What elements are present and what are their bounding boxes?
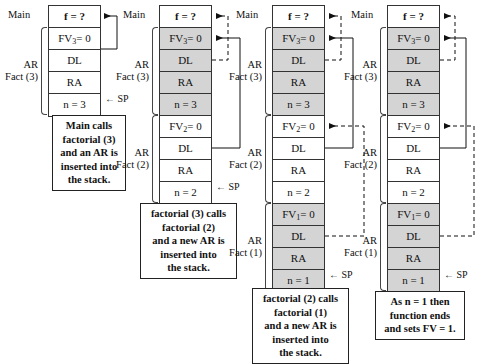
ar-bracket-col4-frame3 — [380, 203, 386, 291]
sp-pointer-col3: ← SP — [329, 269, 353, 280]
stack-cell-dl: DL — [273, 226, 324, 248]
caption-box-col2: factorial (3) calls factorial (2) and a … — [140, 203, 237, 279]
stack-cell-dl: DL — [388, 138, 439, 160]
arrow-col4-dl3-to-main — [440, 16, 455, 60]
stack-cell-n: n = 2 — [273, 182, 324, 204]
stack-cell-fv: FV1= 0 — [273, 204, 324, 226]
stack-cell-fv: FV3= 0 — [388, 28, 439, 50]
stack-cell-main-result: f = ? — [388, 6, 439, 28]
ar-label-col3-frame3: AR Fact (1) — [224, 235, 262, 259]
sp-pointer-col2: ← SP — [216, 181, 240, 192]
stack-cell-fv: FV3= 0 — [160, 28, 211, 50]
stack-cell-dl: DL — [388, 226, 439, 248]
stack-cell-ra: RA — [388, 72, 439, 94]
stack-cell-n: n = 2 — [388, 182, 439, 204]
stack-cell-dl: DL — [273, 138, 324, 160]
stack-cell-n: n = 2 — [160, 182, 211, 204]
ar-bracket-col3-frame3 — [265, 203, 271, 291]
ar-bracket-col4-frame1 — [380, 27, 386, 115]
stack-cell-main-result: f = ? — [160, 6, 211, 28]
stack-cell-fv: FV2= 0 — [273, 116, 324, 138]
stack-cell-n: n = 3 — [388, 94, 439, 116]
ar-bracket-col2-frame2 — [152, 115, 158, 203]
stack-cell-main-result: f = ? — [49, 6, 100, 28]
stack-cell-ra: RA — [388, 248, 439, 270]
caption-box-col3: factorial (2) calls factorial (1) and a … — [252, 288, 349, 364]
stack-cell-dl: DL — [49, 50, 100, 72]
stack-frames-col2: f = ? FV3= 0 DL RA n = 3 FV2= 0 DL RA n … — [159, 5, 212, 205]
stack-cell-dl: DL — [273, 50, 324, 72]
ar-label-col1-frame1: AR Fact (3) — [0, 59, 38, 83]
stack-cell-ra: RA — [273, 72, 324, 94]
stack-cell-n: n = 1 — [388, 270, 439, 292]
stack-cell-main-result: f = ? — [273, 6, 324, 28]
main-label-col4: Main — [351, 9, 373, 20]
stack-cell-ra: RA — [273, 248, 324, 270]
stack-cell-fv: FV2= 0 — [160, 116, 211, 138]
arrow-col3-dl3-to-main — [325, 16, 341, 60]
main-label-col1: Main — [8, 9, 30, 20]
stack-cell-ra: RA — [388, 160, 439, 182]
arrow-col4-dl2-to-fv3 — [440, 38, 466, 148]
stack-cell-ra: RA — [273, 160, 324, 182]
arrow-col2-dl3-to-main — [212, 16, 228, 60]
main-label-col3: Main — [236, 9, 258, 20]
stack-cell-dl: DL — [388, 50, 439, 72]
sp-pointer-col1: ← SP — [105, 93, 129, 104]
stack-frames-col3: f = ? FV3= 0 DL RA n = 3 FV2= 0 DL RA n … — [272, 5, 325, 293]
stack-cell-fv: FV3= 0 — [273, 28, 324, 50]
stack-cell-ra: RA — [160, 72, 211, 94]
arrow-col2-dl2-to-fv3 — [212, 38, 240, 148]
ar-bracket-col2-frame1 — [152, 27, 158, 115]
ar-label-col4-frame3: AR Fact (1) — [339, 235, 377, 259]
stack-cell-n: n = 3 — [49, 94, 100, 116]
arrow-col3-dl1-to-fv2 — [325, 126, 364, 236]
ar-label-col2-frame1: AR Fact (3) — [111, 59, 149, 83]
sp-pointer-col4: ← SP — [444, 269, 468, 280]
ar-label-col4-frame1: AR Fact (3) — [339, 59, 377, 83]
ar-label-col2-frame2: AR Fact (2) — [111, 147, 149, 171]
stack-cell-ra: RA — [160, 160, 211, 182]
ar-bracket-col3-frame2 — [265, 115, 271, 203]
stack-cell-ra: RA — [49, 72, 100, 94]
stack-cell-n: n = 3 — [273, 94, 324, 116]
arrow-col4-dl1-to-fv2 — [440, 126, 474, 236]
ar-bracket-col3-frame1 — [265, 27, 271, 115]
stack-cell-fv: FV3= 0 — [49, 28, 100, 50]
arrow-col3-dl2-to-fv3 — [325, 38, 353, 148]
ar-label-col3-frame1: AR Fact (3) — [224, 59, 262, 83]
stack-cell-dl: DL — [160, 138, 211, 160]
stack-cell-fv: FV2= 0 — [388, 116, 439, 138]
arrow-col1-dl3-to-main — [101, 16, 117, 49]
stack-cell-dl: DL — [160, 50, 211, 72]
ar-label-col4-frame2: AR Fact (2) — [339, 147, 377, 171]
ar-bracket-col4-frame2 — [380, 115, 386, 203]
stack-frames-col4: f = ? FV3= 0 DL RA n = 3 FV2= 0 DL RA n … — [387, 5, 440, 293]
stack-frames-col1: f = ? FV3= 0 DL RA n = 3 — [48, 5, 101, 117]
caption-box-col4: As n = 1 then function ends and sets FV … — [375, 291, 465, 340]
stack-cell-fv: FV1= 0 — [388, 204, 439, 226]
stack-cell-n: n = 3 — [160, 94, 211, 116]
ar-label-col3-frame2: AR Fact (2) — [224, 147, 262, 171]
ar-bracket-col1-frame1 — [41, 27, 47, 115]
main-label-col2: Main — [123, 9, 145, 20]
